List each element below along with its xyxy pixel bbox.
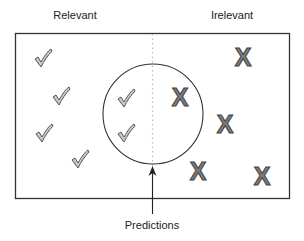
check-6-checkmark-icon: [118, 124, 135, 142]
x-4-cross-icon: X: [190, 157, 207, 185]
check-5-checkmark-icon: [118, 89, 135, 107]
relevance-diagram: Relevant Irelevant Predictions XXXXX: [0, 0, 304, 241]
x-1-cross-icon: X: [172, 83, 189, 111]
x-5-cross-icon: X: [254, 162, 271, 190]
check-4-checkmark-icon: [72, 150, 89, 168]
relevant-label: Relevant: [53, 9, 96, 21]
x-3-cross-icon: X: [217, 110, 234, 138]
x-2-cross-icon: X: [235, 43, 252, 71]
check-1-checkmark-icon: [35, 49, 52, 67]
check-2-checkmark-icon: [53, 87, 70, 105]
irrelevant-label: Irelevant: [211, 9, 253, 21]
predictions-label: Predictions: [125, 219, 180, 231]
check-3-checkmark-icon: [36, 124, 53, 142]
